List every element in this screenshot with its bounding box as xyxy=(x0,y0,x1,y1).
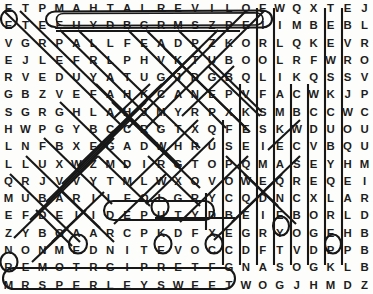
letter-cell[interactable]: G xyxy=(305,225,322,242)
letter-cell[interactable]: M xyxy=(271,104,288,121)
letter-cell[interactable]: A xyxy=(85,225,102,242)
letter-cell[interactable]: R xyxy=(0,69,17,86)
letter-cell[interactable]: T xyxy=(17,0,34,17)
letter-cell[interactable]: Y xyxy=(85,173,102,190)
letter-cell[interactable]: O xyxy=(305,208,322,225)
letter-cell[interactable]: E xyxy=(119,277,136,294)
letter-cell[interactable]: D xyxy=(339,277,356,294)
letter-cell[interactable]: C xyxy=(220,242,237,259)
letter-cell[interactable]: R xyxy=(254,225,271,242)
letter-cell[interactable]: T xyxy=(68,259,85,276)
letter-cell[interactable]: V xyxy=(68,173,85,190)
letter-cell[interactable]: E xyxy=(339,0,356,17)
letter-cell[interactable]: G xyxy=(203,69,220,86)
letter-cell[interactable]: A xyxy=(271,156,288,173)
letter-cell[interactable]: M xyxy=(170,17,187,34)
letter-cell[interactable]: C xyxy=(119,121,136,138)
letter-cell[interactable]: M xyxy=(51,242,68,259)
letter-cell[interactable]: U xyxy=(34,156,51,173)
letter-cell[interactable]: S xyxy=(322,69,339,86)
letter-cell[interactable]: L xyxy=(254,69,271,86)
letter-cell[interactable]: P xyxy=(34,0,51,17)
letter-cell[interactable]: X xyxy=(187,121,204,138)
letter-cell[interactable]: R xyxy=(153,17,170,34)
letter-cell[interactable]: D xyxy=(51,69,68,86)
letter-cell[interactable]: K xyxy=(271,121,288,138)
letter-cell[interactable]: N xyxy=(34,242,51,259)
letter-cell[interactable]: H xyxy=(305,277,322,294)
letter-cell[interactable]: A xyxy=(68,35,85,52)
letter-cell[interactable]: M xyxy=(356,156,373,173)
letter-cell[interactable]: L xyxy=(271,35,288,52)
letter-cell[interactable]: C xyxy=(305,104,322,121)
letter-cell[interactable]: D xyxy=(203,208,220,225)
letter-cell[interactable]: U xyxy=(203,138,220,155)
letter-cell[interactable]: O xyxy=(254,277,271,294)
letter-cell[interactable]: W xyxy=(305,86,322,103)
letter-cell[interactable]: I xyxy=(254,17,271,34)
letter-cell[interactable]: G xyxy=(136,17,153,34)
letter-cell[interactable]: E xyxy=(0,17,17,34)
letter-cell[interactable]: I xyxy=(254,138,271,155)
letter-cell[interactable]: R xyxy=(153,156,170,173)
letter-cell[interactable]: E xyxy=(305,173,322,190)
letter-cell[interactable]: W xyxy=(170,277,187,294)
letter-cell[interactable]: V xyxy=(17,69,34,86)
letter-cell[interactable]: W xyxy=(237,277,254,294)
letter-cell[interactable]: T xyxy=(187,259,204,276)
letter-cell[interactable]: R xyxy=(68,190,85,207)
letter-cell[interactable]: B xyxy=(356,259,373,276)
letter-cell[interactable]: P xyxy=(136,259,153,276)
letter-cell[interactable]: P xyxy=(339,242,356,259)
letter-cell[interactable]: E xyxy=(0,52,17,69)
letter-cell[interactable]: N xyxy=(187,86,204,103)
letter-cell[interactable]: E xyxy=(68,277,85,294)
letter-cell[interactable]: S xyxy=(34,277,51,294)
letter-cell[interactable]: F xyxy=(119,35,136,52)
letter-cell[interactable]: Y xyxy=(68,121,85,138)
letter-cell[interactable]: I xyxy=(271,69,288,86)
letter-cell[interactable]: H xyxy=(119,86,136,103)
letter-cell[interactable]: C xyxy=(119,225,136,242)
letter-cell[interactable]: O xyxy=(339,121,356,138)
letter-cell[interactable]: M xyxy=(322,277,339,294)
letter-cell[interactable]: Q xyxy=(237,156,254,173)
letter-cell[interactable]: O xyxy=(237,35,254,52)
letter-cell[interactable]: U xyxy=(68,69,85,86)
letter-cell[interactable]: L xyxy=(0,138,17,155)
letter-cell[interactable]: U xyxy=(203,52,220,69)
letter-cell[interactable]: O xyxy=(237,52,254,69)
letter-cell[interactable]: I xyxy=(85,190,102,207)
letter-cell[interactable]: Z xyxy=(203,17,220,34)
letter-cell[interactable]: T xyxy=(136,242,153,259)
letter-cell[interactable]: Q xyxy=(339,138,356,155)
letter-cell[interactable]: G xyxy=(102,138,119,155)
letter-cell[interactable]: O xyxy=(187,242,204,259)
letter-cell[interactable]: A xyxy=(153,35,170,52)
letter-cell[interactable]: E xyxy=(17,259,34,276)
letter-cell[interactable]: B xyxy=(51,138,68,155)
letter-cell[interactable]: O xyxy=(254,52,271,69)
letter-cell[interactable]: E xyxy=(322,225,339,242)
letter-cell[interactable]: T xyxy=(187,156,204,173)
letter-cell[interactable]: A xyxy=(119,0,136,17)
letter-cell[interactable]: E xyxy=(68,86,85,103)
letter-cell[interactable]: O xyxy=(356,52,373,69)
letter-cell[interactable]: E xyxy=(220,225,237,242)
letter-cell[interactable]: G xyxy=(153,121,170,138)
letter-cell[interactable]: T xyxy=(119,69,136,86)
letter-cell[interactable]: A xyxy=(254,259,271,276)
letter-cell[interactable]: O xyxy=(203,156,220,173)
letter-cell[interactable]: L xyxy=(102,52,119,69)
letter-cell[interactable]: J xyxy=(17,52,34,69)
letter-cell[interactable]: H xyxy=(170,138,187,155)
letter-cell[interactable]: P xyxy=(136,225,153,242)
letter-cell[interactable]: Q xyxy=(203,121,220,138)
letter-cell[interactable]: R xyxy=(17,277,34,294)
letter-cell[interactable]: O xyxy=(288,225,305,242)
letter-cell[interactable]: N xyxy=(0,242,17,259)
letter-cell[interactable]: Z xyxy=(203,35,220,52)
letter-cell[interactable]: B xyxy=(119,17,136,34)
letter-cell[interactable]: D xyxy=(136,138,153,155)
letter-cell[interactable]: Q xyxy=(322,173,339,190)
